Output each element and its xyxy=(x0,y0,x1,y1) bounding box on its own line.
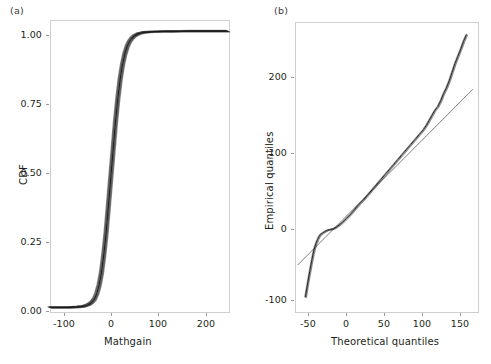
ecdf-curve xyxy=(50,31,228,307)
panel-a-curve-layer xyxy=(0,0,246,364)
ecdf-curve xyxy=(51,31,229,307)
ecdf-curve xyxy=(52,32,230,308)
figure-container: (a) 1.00 0.75 0.50 0.25 0.00 -100 0 100 … xyxy=(0,0,491,364)
qq-panel: (b) 200 100 0 -100 -50 0 50 100 150 Theo… xyxy=(246,0,491,364)
ecdf-curve xyxy=(49,31,227,307)
ecdf-curve xyxy=(49,31,227,307)
ecdf-curve xyxy=(51,32,229,308)
qq-sample-curve xyxy=(306,35,467,297)
ecdf-panel: (a) 1.00 0.75 0.50 0.25 0.00 -100 0 100 … xyxy=(0,0,246,364)
qq-sample-curve xyxy=(305,34,466,296)
qq-sample-curve xyxy=(305,35,466,297)
qq-sample-curve xyxy=(307,35,468,297)
qq-reference-line xyxy=(298,90,473,265)
panel-b-curve-layer xyxy=(246,0,491,364)
ecdf-curve xyxy=(48,30,226,306)
